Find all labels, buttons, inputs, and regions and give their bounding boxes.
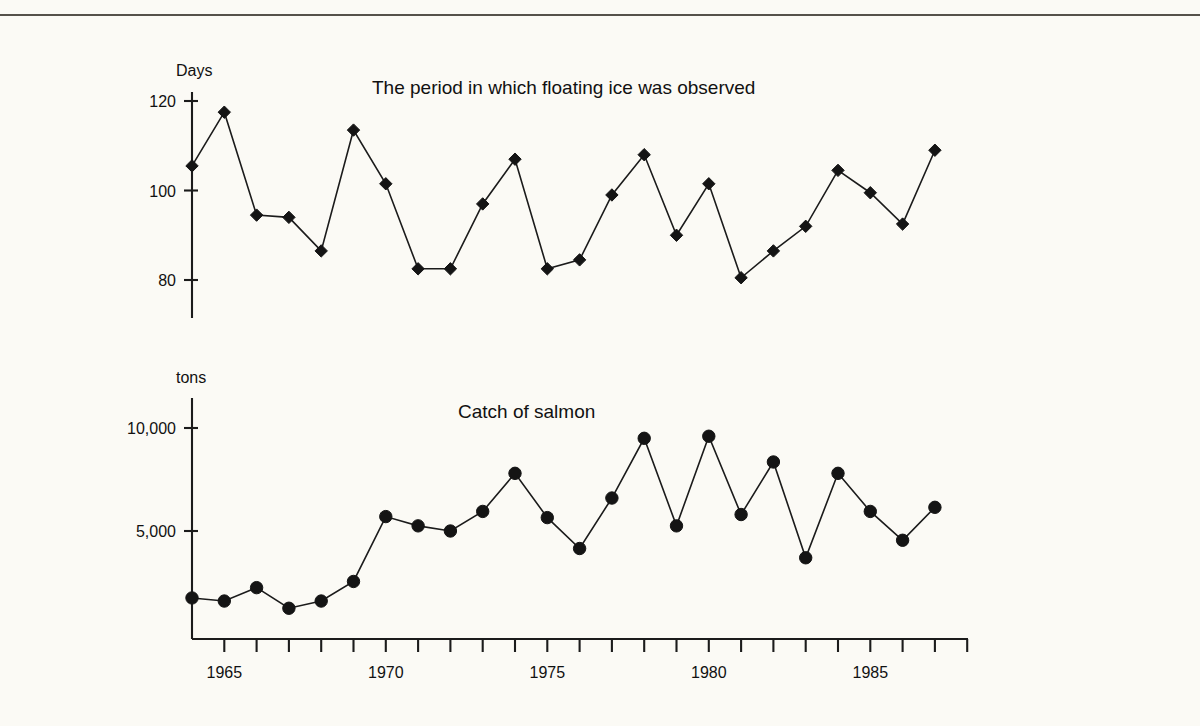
data-point-marker [929,144,941,156]
series-line-salmon-catch [192,436,935,608]
data-point-marker [218,595,230,607]
y-axis-label-tons: tons [176,369,206,386]
data-point-marker [800,220,812,232]
data-point-marker [283,602,295,614]
data-point-marker [800,552,812,564]
data-point-marker [250,581,262,593]
series-markers-floating-ice [186,106,941,284]
data-point-marker [347,575,359,587]
data-point-marker [509,153,521,165]
data-point-marker [864,505,876,517]
data-point-marker [767,456,779,468]
chart-salmon-catch: tons Catch of salmon 5,00010,000 1965197… [127,369,968,681]
data-point-marker [444,263,456,275]
data-point-marker [218,106,230,118]
x-axis-ticks-salmon [224,639,967,652]
x-tick-label: 1965 [207,664,243,681]
chart-title-salmon-catch: Catch of salmon [458,401,595,422]
data-point-marker [412,520,424,532]
x-tick-label: 1985 [853,664,889,681]
data-point-marker [186,160,198,172]
data-point-marker [250,209,262,221]
chart-title-floating-ice: The period in which floating ice was obs… [372,77,755,98]
data-point-marker [896,534,908,546]
data-point-marker [477,198,489,210]
data-point-marker [477,505,489,517]
data-point-marker [703,430,715,442]
charts-svg: Days The period in which floating ice wa… [0,0,1200,726]
data-point-marker [347,124,359,136]
data-point-marker [444,525,456,537]
data-point-marker [186,592,198,604]
data-point-marker [832,467,844,479]
data-point-marker [703,178,715,190]
x-axis-tick-labels-salmon: 19651970197519801985 [207,664,889,681]
x-tick-label: 1975 [530,664,566,681]
figure-container: Days The period in which floating ice wa… [0,0,1200,726]
data-point-marker [670,229,682,241]
data-point-marker [606,492,618,504]
data-point-marker [541,263,553,275]
series-line-floating-ice [192,112,935,278]
data-point-marker [509,467,521,479]
y-tick-label: 100 [149,183,176,200]
data-point-marker [638,432,650,444]
data-point-marker [315,595,327,607]
y-tick-label: 5,000 [136,523,176,540]
data-point-marker [573,254,585,266]
data-point-marker [929,501,941,513]
data-point-marker [573,542,585,554]
chart-floating-ice: Days The period in which floating ice wa… [149,62,941,318]
data-point-marker [412,263,424,275]
y-tick-label: 80 [158,272,176,289]
figure-page: Days The period in which floating ice wa… [0,0,1200,726]
data-point-marker [832,164,844,176]
data-point-marker [735,508,747,520]
data-point-marker [380,510,392,522]
data-point-marker [380,178,392,190]
y-tick-label: 10,000 [127,420,176,437]
y-axis-label-days: Days [176,62,212,79]
y-tick-label: 120 [149,93,176,110]
y-axis-ticks-ice: 80100120 [149,93,198,289]
y-axis-ticks-salmon: 5,00010,000 [127,420,198,540]
series-markers-salmon-catch [186,430,941,614]
x-tick-label: 1970 [368,664,404,681]
data-point-marker [541,511,553,523]
x-tick-label: 1980 [691,664,727,681]
data-point-marker [670,520,682,532]
